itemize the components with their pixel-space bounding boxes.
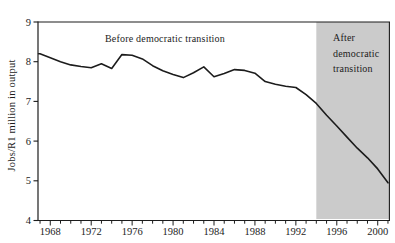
y-tick-label: 4 <box>26 215 32 226</box>
y-axis-title: Jobs/R1 million in output <box>6 41 17 191</box>
x-tick-label: 1992 <box>285 226 306 237</box>
x-tick-label: 2000 <box>367 226 388 237</box>
annotation-before-transition: Before democratic transition <box>85 33 245 44</box>
y-tick-label: 7 <box>26 96 31 107</box>
line-chart-figure: 4567891968197219761980198419881992199620… <box>0 0 395 243</box>
annotation-after-transition: After democratic transition <box>333 30 389 77</box>
x-tick-label: 1996 <box>326 226 347 237</box>
x-tick-label: 1980 <box>163 226 184 237</box>
x-tick-label: 1988 <box>244 226 265 237</box>
y-tick-label: 9 <box>26 17 31 28</box>
x-tick-label: 1976 <box>122 226 143 237</box>
y-tick-label: 8 <box>26 56 31 67</box>
y-tick-label: 6 <box>26 136 31 147</box>
x-tick-label: 1968 <box>40 226 61 237</box>
x-tick-label: 1972 <box>81 226 102 237</box>
x-tick-label: 1984 <box>204 226 226 237</box>
y-tick-label: 5 <box>26 175 31 186</box>
